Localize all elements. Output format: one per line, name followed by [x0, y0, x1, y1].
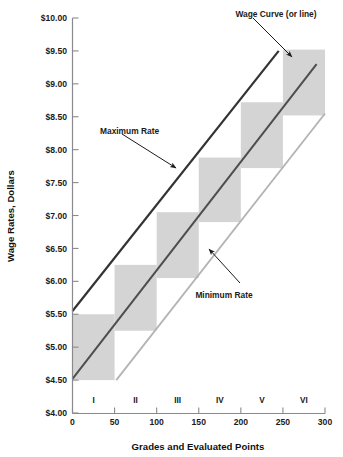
annotation-label-wage-curve-or-line: Wage Curve (or line)	[235, 9, 316, 19]
chart-canvas: $4.00$4.50$5.00$5.50$6.00$6.50$7.00$7.50…	[0, 0, 343, 457]
rate-range-box-vi	[283, 50, 325, 116]
y-tick-label-10: $9.00	[45, 79, 67, 89]
x-tick-label-5: 250	[276, 417, 291, 427]
grade-label-v: V	[259, 396, 265, 405]
y-tick-label-2: $5.00	[45, 342, 67, 352]
wage-curve-chart: $4.00$4.50$5.00$5.50$6.00$6.50$7.00$7.50…	[0, 0, 343, 457]
y-tick-label-11: $9.50	[45, 46, 67, 56]
y-tick-label-3: $5.50	[45, 309, 67, 319]
y-tick-label-6: $7.00	[45, 211, 67, 221]
x-tick-label-4: 200	[234, 417, 249, 427]
y-tick-label-7: $7.50	[45, 178, 67, 188]
y-axis-title: Wage Rates, Dollars	[5, 170, 16, 262]
grade-label-iii: III	[174, 396, 181, 405]
annotation-label-maximum-rate: Maximum Rate	[100, 126, 159, 136]
x-tick-label-6: 300	[318, 417, 333, 427]
grade-label-i: I	[92, 396, 94, 405]
rate-range-box-iii	[157, 212, 199, 278]
x-tick-label-0: 0	[70, 417, 75, 427]
y-tick-label-9: $8.50	[45, 112, 67, 122]
x-tick-label-3: 150	[192, 417, 207, 427]
x-tick-label-1: 50	[110, 417, 120, 427]
y-tick-label-5: $6.50	[45, 244, 67, 254]
grade-label-vi: VI	[300, 396, 308, 405]
y-tick-label-1: $4.50	[45, 375, 67, 385]
grade-label-ii: II	[133, 396, 138, 405]
y-tick-label-8: $8.00	[45, 145, 67, 155]
grade-label-iv: IV	[216, 396, 224, 405]
y-tick-label-0: $4.00	[45, 408, 67, 418]
y-tick-label-12: $10.00	[41, 13, 68, 23]
x-tick-label-2: 100	[149, 417, 164, 427]
annotation-label-minimum-rate: Minimum Rate	[195, 290, 253, 300]
x-axis-title: Grades and Evaluated Points	[132, 441, 265, 452]
y-tick-label-4: $6.00	[45, 276, 67, 286]
